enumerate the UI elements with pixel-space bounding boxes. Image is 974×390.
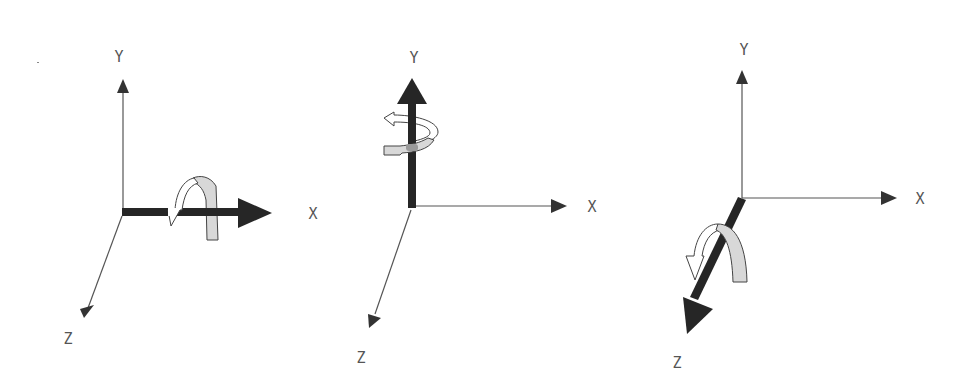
x-axis-arrowhead [238,198,272,228]
axes-rotation-diagram: Y X Z Y X Z [0,0,974,390]
rotation-arrow-front [716,224,747,282]
z-axis [375,210,411,314]
z-axis-arrowhead [683,297,713,334]
x-axis-label: X [308,205,317,223]
panel-rotation-about-x: Y X Z [63,48,317,348]
z-axis-label: Z [356,349,365,367]
panel-rotation-about-y: Y X Z [356,49,596,367]
y-axis-arrowhead [736,70,748,84]
rotation-arrow-front [168,178,198,226]
x-axis-arrowhead [881,191,897,205]
y-axis-label: Y [409,49,418,67]
y-axis-label: Y [739,41,748,59]
z-axis-label: Z [672,354,681,372]
z-axis-label: Z [63,330,72,348]
panel-rotation-about-z: Y X Z [672,41,924,372]
x-axis-label: X [915,190,924,208]
y-axis-label: Y [114,48,123,66]
z-axis-arrowhead [368,314,381,328]
z-axis [88,216,122,308]
y-axis-arrowhead [117,79,129,93]
y-axis-arrowhead [397,78,427,104]
y-axis-bold [408,100,416,208]
stray-dot [37,62,39,63]
z-axis-arrowhead [80,305,94,318]
x-axis-arrowhead [551,199,567,213]
x-axis-label: X [587,198,596,216]
